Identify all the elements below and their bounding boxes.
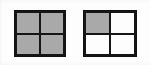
quadrant-top-right <box>41 13 63 33</box>
quadrant-top-left <box>86 13 109 33</box>
quadrant-top-left <box>17 13 39 33</box>
quadrant-bottom-left <box>17 35 39 55</box>
quadrant-top-right <box>111 13 134 33</box>
figure-canvas <box>0 0 150 65</box>
quadrant-bottom-right <box>111 35 134 55</box>
quadrant-bottom-right <box>41 35 63 55</box>
quadrant-bottom-left <box>86 35 109 55</box>
grid-square-right <box>83 10 137 57</box>
grid-square-left <box>14 10 66 57</box>
